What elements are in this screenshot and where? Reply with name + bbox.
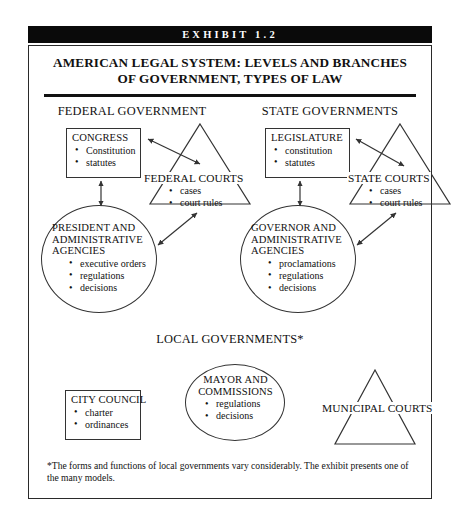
- title-divider-rule: [44, 94, 416, 97]
- exhibit-header-bar: EXHIBIT 1.2: [28, 26, 432, 43]
- list-item: decisions: [196, 410, 275, 422]
- section-heading-local: LOCAL GOVERNMENTS*: [140, 332, 320, 347]
- exhibit-title-line-2: OF GOVERNMENT, TYPES OF LAW: [34, 71, 426, 87]
- section-heading-state: STATE GOVERNMENTS: [250, 104, 410, 119]
- list-item: statutes: [271, 157, 344, 169]
- list-item: ordinances: [71, 419, 135, 431]
- node-governor-title-line-1: GOVERNOR AND: [251, 222, 342, 234]
- exhibit-number-label: EXHIBIT 1.2: [182, 29, 278, 40]
- list-item: executive orders: [66, 258, 146, 270]
- node-legislature-title: LEGISLATURE: [271, 132, 344, 144]
- list-item: constitution: [271, 145, 344, 157]
- node-mayor-title-line-1: MAYOR AND: [196, 374, 275, 386]
- node-state-courts-title: STATE COURTS: [347, 172, 431, 184]
- node-state-courts-items: cases court rules: [366, 185, 423, 209]
- section-heading-federal: FEDERAL GOVERNMENT: [52, 104, 212, 119]
- node-congress: CONGRESS Constitution statutes: [66, 128, 141, 178]
- node-governor-title-line-2: ADMINISTRATIVE: [251, 234, 342, 246]
- node-president-items: executive orders regulations decisions: [66, 258, 146, 295]
- list-item: regulations: [66, 270, 146, 282]
- node-city-council-title: CITY COUNCIL: [71, 394, 135, 406]
- list-item: statutes: [72, 157, 135, 169]
- node-mayor-commissions: MAYOR AND COMMISSIONS regulations decisi…: [196, 374, 275, 423]
- node-president-title-line-1: PRESIDENT AND: [52, 222, 146, 234]
- exhibit-title-line-1: AMERICAN LEGAL SYSTEM: LEVELS AND BRANCH…: [34, 55, 426, 71]
- node-governor-agencies: GOVERNOR AND ADMINISTRATIVE AGENCIES pro…: [251, 222, 342, 294]
- list-item: court rules: [166, 197, 223, 209]
- node-federal-courts-items: cases court rules: [166, 185, 223, 209]
- list-item: proclamations: [265, 258, 342, 270]
- exhibit-title: AMERICAN LEGAL SYSTEM: LEVELS AND BRANCH…: [34, 55, 426, 86]
- node-city-council: CITY COUNCIL charter ordinances: [65, 390, 141, 440]
- node-congress-title: CONGRESS: [72, 132, 135, 144]
- node-governor-items: proclamations regulations decisions: [265, 258, 342, 295]
- list-item: cases: [366, 185, 423, 197]
- node-governor-title-line-3: AGENCIES: [251, 245, 342, 257]
- list-item: Constitution: [72, 145, 135, 157]
- list-item: cases: [166, 185, 223, 197]
- footnote-text: *The forms and functions of local govern…: [47, 460, 419, 483]
- node-city-council-items: charter ordinances: [71, 407, 135, 431]
- list-item: regulations: [196, 398, 275, 410]
- list-item: charter: [71, 407, 135, 419]
- node-mayor-items: regulations decisions: [196, 398, 275, 422]
- node-president-agencies: PRESIDENT AND ADMINISTRATIVE AGENCIES ex…: [52, 222, 146, 294]
- node-municipal-courts-title: MUNICIPAL COURTS: [321, 402, 434, 414]
- list-item: court rules: [366, 197, 423, 209]
- list-item: decisions: [265, 282, 342, 294]
- node-president-title-line-2: ADMINISTRATIVE: [52, 234, 146, 246]
- node-legislature: LEGISLATURE constitution statutes: [265, 128, 350, 178]
- node-legislature-items: constitution statutes: [271, 145, 344, 169]
- node-congress-items: Constitution statutes: [72, 145, 135, 169]
- node-federal-courts-title: FEDERAL COURTS: [143, 172, 244, 184]
- list-item: regulations: [265, 270, 342, 282]
- list-item: decisions: [66, 282, 146, 294]
- node-president-title-line-3: AGENCIES: [52, 245, 146, 257]
- node-mayor-title-line-2: COMMISSIONS: [196, 386, 275, 398]
